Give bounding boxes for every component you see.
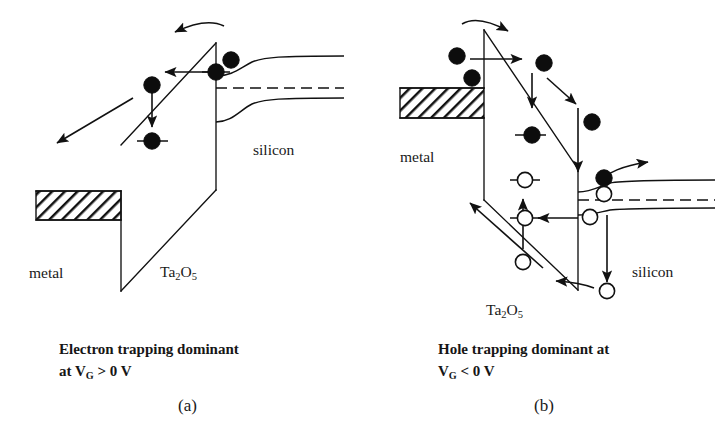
panel-a-metal-label: metal (29, 263, 63, 283)
electron-icon (524, 127, 540, 143)
hole-icon (515, 254, 530, 269)
panel-a-silicon-valence-band (216, 98, 344, 122)
electron-icon (144, 133, 160, 149)
panel-b-oxide-conduction-band (484, 30, 578, 169)
electron-icon (223, 52, 239, 68)
panel-b-caption-vg-prefix: V (438, 363, 449, 379)
panel-b-caption-vg-suffix: < 0 V (457, 363, 495, 379)
panel-b-silicon-label: silicon (632, 262, 673, 282)
panel-b-electron-drift-arrow-icon (547, 78, 576, 104)
panel-a-caption-line1: Electron trapping dominant (59, 339, 239, 361)
electron-icon (584, 114, 600, 130)
panel-a-letter: (a) (178, 396, 197, 416)
panel-a-caption-line2: at VG > 0 V (59, 361, 239, 383)
panel-a-oxide-label-sub1: 2 (175, 271, 180, 282)
panel-a-oxide-label: Ta2O5 (160, 262, 197, 282)
panel-a-oxide-label-ta: Ta (160, 263, 175, 280)
hole-icon (582, 209, 597, 224)
panel-b-caption-line2: VG < 0 V (438, 361, 609, 383)
electron-icon (536, 55, 552, 71)
panel-b-caption: Hole trapping dominant at VG < 0 V (438, 339, 609, 383)
electron-icon (596, 170, 612, 186)
panel-b-hole-escape-arrow-icon (470, 203, 543, 268)
panel-b-oxide-label-ta: Ta (486, 301, 501, 318)
panel-b-oxide-label-sub1: 2 (501, 309, 506, 320)
panel-a-caption-vg-sub: G (86, 370, 94, 381)
panel-a-caption-vg-prefix: at V (59, 363, 86, 379)
hole-icon (517, 210, 532, 225)
figure-root: metal Ta2O5 silicon metal Ta2O5 silicon … (0, 0, 715, 431)
panel-b-metal-hatch (400, 88, 484, 118)
panel-a-oxide-label-sub2: 5 (192, 271, 197, 282)
electron-icon (144, 77, 160, 93)
panel-a-caption: Electron trapping dominant at VG > 0 V (59, 339, 239, 383)
electron-icon (464, 70, 480, 86)
panel-b-diagram (400, 21, 715, 299)
panel-b-silicon-valence-band (578, 208, 715, 215)
panel-a-oxide-conduction-band (121, 43, 216, 145)
panel-a-oxide-label-o: O (181, 263, 192, 280)
panel-b-metal-label: metal (400, 147, 434, 167)
panel-b-caption-vg-sub: G (449, 370, 457, 381)
panel-b-curved-arrow-icon (462, 21, 508, 31)
panel-a-silicon-label: silicon (253, 140, 294, 160)
hole-icon (599, 283, 614, 298)
panel-b-caption-line1: Hole trapping dominant at (438, 339, 609, 361)
hole-icon (517, 172, 532, 187)
panel-a-escape-arrow-icon (57, 98, 133, 143)
panel-a-metal-hatch (36, 191, 121, 220)
electron-icon (449, 48, 465, 64)
panel-b-letter: (b) (534, 396, 554, 416)
panel-a-caption-vg-suffix: > 0 V (94, 363, 132, 379)
panel-b-oxide-label: Ta2O5 (486, 300, 523, 320)
electron-icon (208, 64, 224, 80)
hole-icon (596, 186, 611, 201)
panel-a-curved-arrow-icon (175, 23, 224, 32)
panel-b-oxide-label-sub2: 5 (518, 309, 523, 320)
panel-b-oxide-label-o: O (507, 301, 518, 318)
panel-a-diagram (36, 23, 344, 291)
